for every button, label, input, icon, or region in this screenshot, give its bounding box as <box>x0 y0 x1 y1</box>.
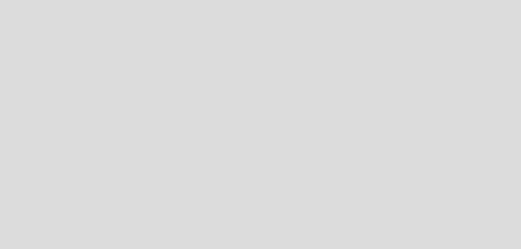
chart-figure <box>0 0 521 249</box>
